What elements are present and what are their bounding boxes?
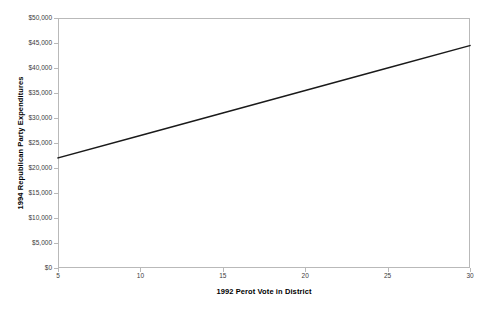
plot-area (58, 18, 470, 268)
y-tick-label: $30,000 (0, 113, 52, 123)
x-tick-label: 25 (373, 271, 403, 281)
y-tick-mark (54, 18, 58, 19)
x-tick-mark (305, 268, 306, 272)
x-tick-mark (140, 268, 141, 272)
y-tick-mark (54, 143, 58, 144)
y-tick-mark (54, 168, 58, 169)
line-chart: 1994 Republican Party Expenditures $0$5,… (0, 0, 488, 310)
y-tick-mark (54, 43, 58, 44)
x-tick-label: 30 (455, 271, 485, 281)
y-tick-label: $35,000 (0, 88, 52, 98)
x-tick-mark (58, 268, 59, 272)
y-tick-label: $20,000 (0, 163, 52, 173)
y-tick-label: $5,000 (0, 238, 52, 248)
y-tick-label: $40,000 (0, 63, 52, 73)
y-tick-mark (54, 93, 58, 94)
y-tick-label: $50,000 (0, 13, 52, 23)
y-tick-mark (54, 218, 58, 219)
y-tick-label: $15,000 (0, 188, 52, 198)
x-tick-mark (470, 268, 471, 272)
y-tick-label: $10,000 (0, 213, 52, 223)
y-tick-mark (54, 118, 58, 119)
y-tick-label: $45,000 (0, 38, 52, 48)
x-tick-label: 20 (290, 271, 320, 281)
y-tick-mark (54, 68, 58, 69)
y-tick-label: $25,000 (0, 138, 52, 148)
y-tick-mark (54, 193, 58, 194)
x-tick-mark (223, 268, 224, 272)
y-tick-mark (54, 243, 58, 244)
x-tick-label: 15 (208, 271, 238, 281)
x-tick-label: 5 (43, 271, 73, 281)
x-tick-label: 10 (125, 271, 155, 281)
x-tick-mark (388, 268, 389, 272)
x-axis-title: 1992 Perot Vote in District (58, 287, 470, 296)
